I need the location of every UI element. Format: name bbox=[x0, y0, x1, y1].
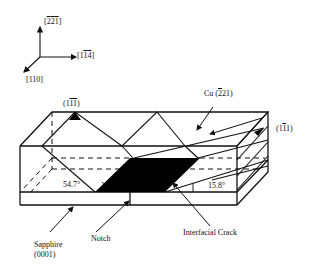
angle-right-label: 15.8° bbox=[208, 181, 225, 190]
cu-leader-arrow bbox=[197, 107, 213, 130]
cu-label: Cu (221) bbox=[204, 89, 233, 98]
interfacial-crack-label: Interfacial Crack bbox=[183, 228, 237, 237]
specimen-drawing bbox=[0, 0, 311, 264]
plane-left-label: (111) bbox=[63, 99, 80, 108]
angle-left-label: 54.7° bbox=[63, 180, 80, 189]
notch-label: Notch bbox=[91, 234, 111, 243]
axis-up-label: [221] bbox=[44, 17, 61, 26]
axis-right-label: [114] bbox=[77, 51, 94, 60]
axis-front-label: [110] bbox=[26, 75, 43, 84]
plane-right-leader-arrow bbox=[210, 118, 262, 134]
sapphire-orientation-label: (0001) bbox=[34, 250, 55, 259]
sapphire-label: Sapphire bbox=[34, 240, 62, 249]
plane-right-label: (111) bbox=[276, 124, 293, 133]
diagram-canvas: [221] [114] [110] (111) Cu (221) (111) 5… bbox=[0, 0, 311, 264]
sapphire-leader-arrow bbox=[50, 207, 73, 232]
coordinate-axes-icon bbox=[24, 27, 76, 72]
interfacial-crack-region bbox=[95, 158, 200, 192]
